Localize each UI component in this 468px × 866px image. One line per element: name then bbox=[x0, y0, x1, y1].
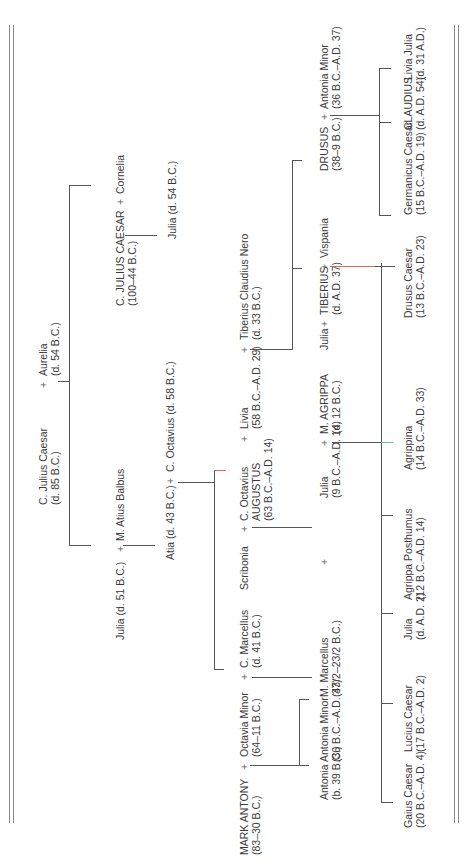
connector bbox=[381, 802, 393, 803]
connector bbox=[123, 545, 155, 546]
person-aurelia: Aurelia (d. 54 B.C.) bbox=[37, 322, 61, 376]
connector bbox=[381, 703, 393, 704]
marriage-plus: + bbox=[37, 382, 49, 388]
left-border-rule bbox=[9, 25, 14, 823]
connector bbox=[379, 215, 391, 216]
connector bbox=[58, 381, 70, 382]
person-gaius-caesar: Gaius Caesar (20 B.C.–A.D. 4) bbox=[402, 751, 426, 828]
person-mark-antony: MARK ANTONY (83–30 B.C.) bbox=[238, 779, 262, 855]
person-c-marcellus: C. Marcellus (d. 41 B.C.) bbox=[238, 610, 262, 668]
connector bbox=[292, 160, 302, 161]
connector bbox=[292, 160, 293, 350]
connector bbox=[381, 515, 393, 516]
marriage-plus: + bbox=[238, 347, 250, 353]
connector bbox=[299, 699, 300, 766]
person-c-octavius-senior: C. Octavius (d. 58 B.C.) bbox=[164, 361, 176, 472]
marriage-plus: + bbox=[164, 478, 176, 484]
connector bbox=[125, 235, 157, 236]
person-tiberius-claudius-nero: Tiberius Claudius Nero (d. 33 B.C.) bbox=[238, 234, 262, 340]
connector bbox=[379, 68, 380, 215]
marriage-plus: + bbox=[238, 436, 250, 442]
marriage-plus: + bbox=[114, 199, 126, 205]
right-border-rule bbox=[454, 25, 459, 823]
connector bbox=[178, 482, 215, 483]
person-julia-d54: Julia (d. 54 B.C.) bbox=[166, 161, 178, 239]
person-vispania: Vispania bbox=[318, 218, 330, 258]
connector bbox=[69, 185, 70, 545]
marriage-plus: + bbox=[114, 546, 126, 552]
connector bbox=[69, 185, 91, 186]
marriage-plus: + bbox=[318, 440, 330, 446]
person-m-atius-balbus: M. Atius Balbus bbox=[114, 469, 126, 541]
connector bbox=[250, 349, 293, 350]
connector bbox=[214, 669, 224, 670]
marriage-plus: + bbox=[318, 321, 330, 327]
person-germanicus-caesar: Germanicus Caesar (15 B.C.–A.D. 19) bbox=[402, 122, 426, 215]
marriage-plus: + bbox=[318, 114, 330, 120]
connector bbox=[381, 442, 393, 443]
connector bbox=[252, 527, 312, 528]
person-octavia-minor: Octavia Minor (64–11 B.C.) bbox=[238, 692, 262, 757]
person-livia: Livia (58 B.C.–A.D. 29) bbox=[238, 346, 262, 429]
marriage-plus: + bbox=[238, 764, 250, 770]
connector bbox=[379, 122, 391, 123]
person-lucius-caesar: Lucius Caesar (17 B.C.–A.D. 2) bbox=[402, 675, 426, 752]
person-c-julius-caesar: C. JULIUS CAESAR (100–44 B.C.) bbox=[114, 210, 138, 306]
connector bbox=[330, 115, 380, 116]
person-antonia-minor-2: Antonia Minor (36 B.C.–A.D. 37) bbox=[318, 26, 342, 109]
person-atia: Atia (d. 43 B.C.) bbox=[164, 485, 176, 560]
connector bbox=[214, 470, 226, 471]
person-m-marcellus: M. Marcellus (43/2–23/2 B.C.) bbox=[318, 620, 342, 697]
connector bbox=[375, 266, 395, 267]
person-scribonia: Scribonia bbox=[238, 546, 250, 590]
connector bbox=[299, 699, 309, 700]
marriage-plus: + bbox=[318, 264, 330, 270]
person-drusus: DRUSUS (38–9 B.C.) bbox=[318, 117, 342, 171]
marriage-plus: + bbox=[318, 559, 330, 565]
connector bbox=[214, 470, 215, 670]
connector bbox=[379, 68, 391, 69]
person-julia-tiberius: Julia bbox=[318, 328, 330, 350]
connector bbox=[332, 442, 382, 443]
person-claudius: CLAUDIUS (d. A.D. 54) bbox=[402, 77, 426, 130]
connector bbox=[252, 677, 312, 678]
person-augustus: C. Octavius AUGUSTUS (63 B.C.–A.D. 14) bbox=[238, 438, 274, 521]
person-m-agrippa: M. AGRIPPA (d. 12 B.C.) bbox=[318, 374, 342, 434]
connector bbox=[299, 765, 309, 766]
marriage-plus: + bbox=[238, 526, 250, 532]
connector bbox=[292, 268, 302, 269]
connector bbox=[381, 613, 393, 614]
person-cornelia: Cornelia bbox=[114, 155, 126, 194]
connector bbox=[69, 545, 91, 546]
connector bbox=[330, 266, 375, 267]
person-livia-julia: Livia Julia (d. 31 A.D.) bbox=[402, 27, 426, 80]
person-agrippina: Agrippina (14 B.C.–A.D. 33) bbox=[402, 387, 426, 470]
marriage-plus: + bbox=[238, 674, 250, 680]
person-drusus-caesar: Drusus Caesar (13 B.C.–A.D. 23) bbox=[402, 235, 426, 318]
connector bbox=[381, 263, 382, 803]
person-julia-d51: Julia (d. 51 B.C.) bbox=[114, 562, 126, 640]
person-agrippa-posthumus: Agrippa Posthumus (12 B.C.–A.D. 14) bbox=[402, 508, 426, 600]
connector bbox=[250, 765, 300, 766]
person-c-julius-caesar-senior: C. Julius Caesar (d. 85 B.C.) bbox=[37, 428, 61, 505]
